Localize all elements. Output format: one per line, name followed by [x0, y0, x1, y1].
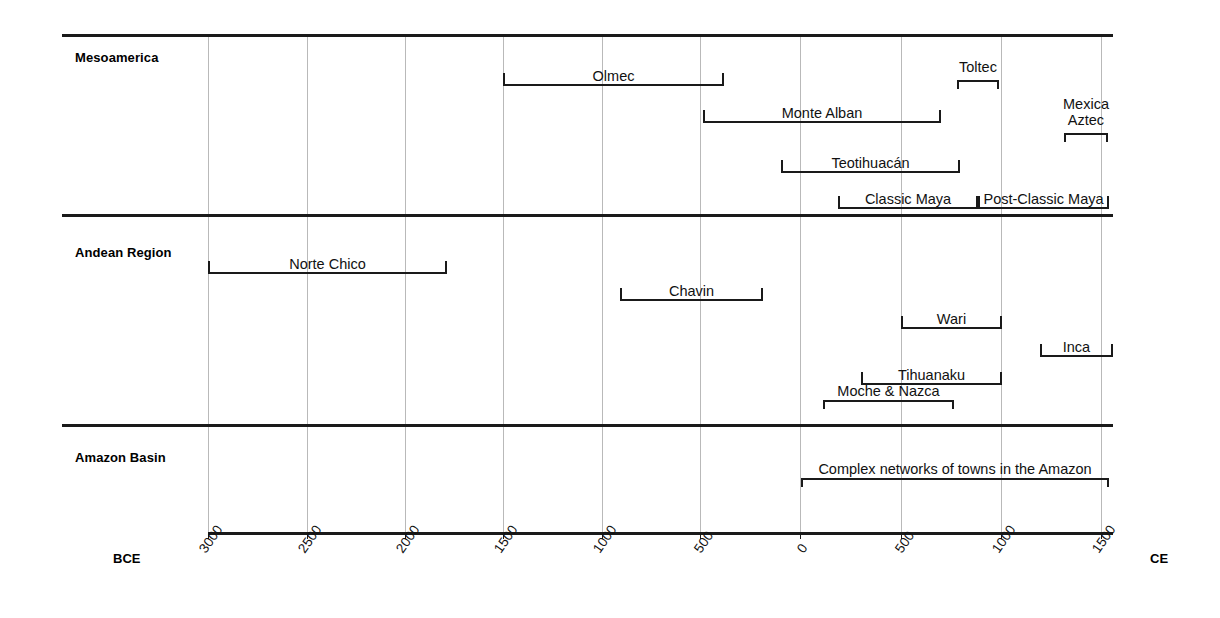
gridline-1000bce	[602, 36, 603, 532]
era-label-moche-nazca: Moche & Nazca	[823, 383, 954, 399]
era-label-post-classic-maya: Post-Classic Maya	[978, 191, 1109, 207]
era-label-wari: Wari	[901, 311, 1002, 327]
region-label-amazon: Amazon Basin	[75, 450, 166, 465]
band-rule-mesoamerica-bottom	[62, 214, 1113, 217]
era-label-teotihuacan: Teotihuacán	[781, 155, 960, 171]
era-label-aztec: Aztec	[1034, 112, 1138, 128]
axis-tick-label-1000ce: 1000	[989, 522, 1019, 555]
axis-tick-label-0: 0	[794, 541, 811, 556]
axis-tick-0	[800, 532, 801, 539]
era-bar-mexica-aztec	[1064, 133, 1108, 142]
era-label-tihuanaku: Tihuanaku	[861, 367, 1002, 383]
era-label-chavin: Chavin	[620, 283, 763, 299]
region-label-andean: Andean Region	[75, 245, 172, 260]
axis-tick-label-1000bce: 1000	[590, 522, 620, 555]
axis-tick-label-3000bce: 3000	[196, 522, 226, 555]
band-rule-top	[62, 34, 1113, 37]
gridline-1500bce	[503, 36, 504, 532]
axis-tick-label-1500ce: 1500	[1089, 522, 1119, 555]
era-label-norte-chico: Norte Chico	[208, 256, 447, 272]
timeline-chart: Mesoamerica Andean Region Amazon Basin O…	[0, 0, 1220, 618]
era-label-amazon-towns: Complex networks of towns in the Amazon	[761, 461, 1149, 477]
axis-label-ce: CE	[1150, 551, 1168, 566]
gridline-3000bce	[208, 36, 209, 532]
region-label-mesoamerica: Mesoamerica	[75, 50, 158, 65]
era-label-mexica: Mexica	[1034, 96, 1138, 112]
era-bar-amazon-towns	[801, 478, 1109, 487]
era-label-classic-maya: Classic Maya	[838, 191, 978, 207]
axis-label-bce: BCE	[113, 551, 140, 566]
era-label-monte-alban: Monte Alban	[703, 105, 941, 121]
era-bar-toltec	[957, 80, 999, 89]
band-rule-andean-bottom	[62, 424, 1113, 427]
axis-tick-label-1500bce: 1500	[491, 522, 521, 555]
era-label-inca: Inca	[1040, 339, 1113, 355]
era-label-olmec: Olmec	[503, 68, 724, 84]
gridline-2000bce	[405, 36, 406, 532]
time-axis	[208, 532, 1113, 535]
axis-tick-label-2500bce: 2500	[295, 522, 325, 555]
era-label-toltec: Toltec	[936, 59, 1020, 75]
axis-tick-label-2000bce: 2000	[393, 522, 423, 555]
era-bar-moche-nazca	[823, 400, 954, 409]
gridline-1000ce	[1001, 36, 1002, 532]
gridline-2500bce	[307, 36, 308, 532]
